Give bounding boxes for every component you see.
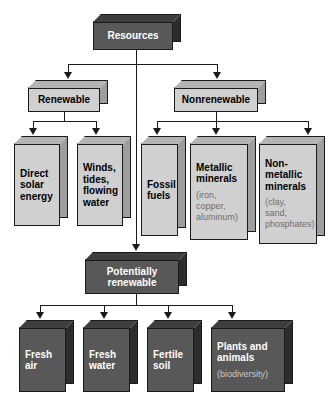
node-non-metallic-minerals: Non- metallic minerals (clay, sand, phos… [259, 136, 325, 244]
node-plants-and-animals: Plants and animals (biodiversity) [211, 320, 293, 392]
arrow-to-metallic [212, 128, 220, 135]
box-front-face: Direct solar energy [14, 144, 60, 226]
node-label-nonrenewable: Nonrenewable [177, 94, 255, 106]
node-label-fresh-air: Fresh air [20, 349, 57, 372]
box-top-face [190, 136, 256, 144]
node-metallic-minerals: Metallic minerals (iron, copper, aluminu… [190, 136, 256, 240]
box-front-face: Potentially renewable [85, 260, 179, 294]
box-front-face: Nonrenewable [174, 88, 258, 112]
diagram-canvas: Resources Renewable Nonrenewable [0, 0, 330, 405]
arrow-to-direct-solar [29, 128, 37, 135]
box-side-face [194, 320, 202, 384]
node-renewable: Renewable [28, 80, 108, 112]
connector-nonrenewable-bar [157, 121, 309, 122]
node-label-potentially-renewable: Potentially renewable [102, 266, 163, 289]
arrow-to-winds [92, 128, 100, 135]
box-top-face [147, 320, 202, 328]
box-top-face [83, 320, 138, 328]
box-front-face: Fossil fuels [141, 144, 178, 236]
arrow-to-fresh-air [36, 312, 44, 319]
connector-root-stem [136, 50, 137, 64]
connector-potentially-renewable-stem [136, 294, 137, 305]
node-label-winds-tides-flowing-water: Winds, tides, flowing water [78, 162, 123, 208]
arrow-to-renewable [64, 72, 72, 79]
box-top-face [85, 252, 187, 260]
box-front-face: Resources [93, 22, 173, 50]
box-top-face [211, 320, 293, 328]
node-label-metallic-minerals: Metallic minerals [191, 162, 242, 185]
box-side-face [130, 320, 138, 384]
node-label-non-metallic-minerals: Non- metallic minerals [260, 158, 311, 193]
node-label-renewable: Renewable [33, 94, 95, 106]
box-side-face [285, 320, 293, 384]
node-resources: Resources [93, 14, 181, 50]
node-nonrenewable: Nonrenewable [174, 80, 266, 112]
node-label-direct-solar-energy: Direct solar energy [15, 168, 58, 203]
arrow-to-fossil-fuels [153, 128, 161, 135]
connector-nonrenewable-stem [216, 112, 217, 121]
node-fresh-water: Fresh water [83, 320, 138, 392]
node-direct-solar-energy: Direct solar energy [14, 136, 68, 226]
box-front-face: Plants and animals (biodiversity) [211, 328, 285, 392]
box-top-face [259, 136, 325, 144]
box-side-face [66, 320, 74, 384]
box-side-face [248, 136, 256, 232]
box-side-face [60, 136, 68, 218]
node-label-fossil-fuels: Fossil fuels [142, 179, 181, 202]
arrow-to-nonrenewable [213, 72, 221, 79]
node-label-plants-and-animals: Plants and animals [212, 341, 273, 364]
box-front-face: Non- metallic minerals (clay, sand, phos… [259, 144, 317, 244]
box-front-face: Metallic minerals (iron, copper, aluminu… [190, 144, 248, 240]
box-front-face: Renewable [28, 88, 100, 112]
box-top-face [174, 80, 266, 88]
box-front-face: Winds, tides, flowing water [77, 144, 123, 226]
node-winds-tides-flowing-water: Winds, tides, flowing water [77, 136, 131, 226]
connector-root-trunk [136, 64, 137, 246]
box-top-face [14, 136, 68, 144]
arrow-to-fresh-water [100, 312, 108, 319]
box-front-face: Fresh air [19, 328, 66, 392]
arrow-to-nonmetallic [304, 128, 312, 135]
arrow-to-plants-animals [228, 312, 236, 319]
node-label-resources: Resources [102, 30, 163, 42]
box-top-face [93, 14, 181, 22]
node-fertile-soil: Fertile soil [147, 320, 202, 392]
node-sublabel-non-metallic-minerals: (clay, sand, phosphates) [260, 197, 320, 230]
node-fresh-air: Fresh air [19, 320, 74, 392]
node-sublabel-metallic-minerals: (iron, copper, aluminum) [191, 190, 243, 223]
node-fossil-fuels: Fossil fuels [141, 136, 186, 236]
arrow-to-fertile-soil [164, 312, 172, 319]
node-potentially-renewable: Potentially renewable [85, 252, 187, 294]
arrow-to-potentially-renewable [132, 244, 140, 251]
node-label-fertile-soil: Fertile soil [148, 349, 188, 372]
connector-renewable-stem [64, 112, 65, 121]
node-sublabel-plants-and-animals: (biodiversity) [212, 369, 273, 380]
box-top-face [19, 320, 74, 328]
connector-root-bar [68, 64, 217, 65]
box-top-face [28, 80, 108, 88]
node-label-fresh-water: Fresh water [84, 349, 121, 372]
box-front-face: Fresh water [83, 328, 130, 392]
box-front-face: Fertile soil [147, 328, 194, 392]
connector-bottom-bar [40, 305, 232, 306]
box-top-face [77, 136, 131, 144]
box-side-face [123, 136, 131, 218]
connector-renewable-bar [33, 121, 96, 122]
